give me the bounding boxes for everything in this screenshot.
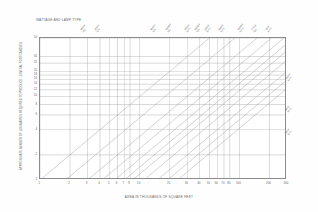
x-tick-label: 200 — [266, 181, 271, 185]
series-label-70w-hps: 70WHPS — [265, 26, 273, 34]
x-tick-label: 40 — [197, 181, 200, 185]
x-tick-label: 60 — [215, 181, 218, 185]
y-tick-label: 30 — [30, 54, 37, 58]
y-axis-title: APPROXIMATE NUMBER OF LUMINAIRES REQUIRE… — [14, 36, 30, 176]
y-tick-label: 12 — [30, 87, 37, 91]
series-label-175w-mv: 175WMV — [252, 25, 261, 34]
series-label-250w-mh: 250WMH — [94, 25, 103, 34]
chart-title: WATTAGE AND LAMP TYPE — [36, 18, 81, 22]
series-label-150w-hps: 150WHPS — [185, 25, 194, 34]
series-label-100w-hps: 100WHPS — [285, 74, 294, 83]
series-label-400w-hps: 400WHPS — [218, 25, 227, 34]
series-label-1000w-hps: 1000WHPS — [237, 24, 247, 34]
x-tick-label: 7 — [122, 181, 124, 185]
x-tick-label: 2 — [68, 181, 70, 185]
y-tick-label: 10 — [30, 93, 37, 97]
y-tick-label: 2 — [30, 152, 37, 156]
x-tick-label: 4 — [98, 181, 100, 185]
series-label-35w-hps: 35WHPS — [285, 129, 293, 137]
x-tick-label: 30 — [185, 181, 188, 185]
x-tick-label: 6 — [116, 181, 118, 185]
y-tick-label: 14 — [30, 81, 37, 85]
y-axis-title-text: APPROXIMATE NUMBER OF LUMINAIRES REQUIRE… — [20, 42, 24, 170]
x-tick-label: 8 — [128, 181, 130, 185]
y-tick-label: 1 — [30, 177, 37, 181]
x-axis-title: AREA IN THOUSANDS OF SQUARE FEET — [0, 195, 318, 199]
series-label-50w-hps: 50WHPS — [285, 106, 293, 114]
x-tick-label: 300 — [284, 181, 289, 185]
y-tick-label: 16 — [30, 76, 37, 80]
y-tick-label: 6 — [30, 112, 37, 116]
x-tick-label: 50 — [207, 181, 210, 185]
x-tick-label: 3 — [86, 181, 88, 185]
x-tick-label: 100 — [236, 181, 241, 185]
x-tick-label: 80 — [227, 181, 230, 185]
y-tick-label: 8 — [30, 102, 37, 106]
y-tick-label: 20 — [30, 68, 37, 72]
x-tick-label: 70 — [221, 181, 224, 185]
y-tick-label: 4 — [30, 127, 37, 131]
x-tick-label: 1 — [38, 181, 40, 185]
series-label-250w-hps: 250WHPS — [205, 25, 214, 34]
x-tick-label: 5 — [108, 181, 110, 185]
plot-area — [39, 37, 286, 179]
y-tick-label: 18 — [30, 72, 37, 76]
chart-figure: WATTAGE AND LAMP TYPE APPROXIMATE NUMBER… — [0, 0, 318, 212]
x-tick-label: 20 — [167, 181, 170, 185]
series-label-1000w-mv: 1000WMV — [165, 24, 175, 34]
series-label-400w-mv: 400WMV — [80, 25, 89, 34]
x-tick-label: 10 — [137, 181, 140, 185]
y-tick-label: 50 — [30, 35, 37, 39]
series-label-400w-mh: 400WMH — [150, 25, 159, 34]
plot-svg — [40, 38, 286, 179]
y-tick-label: 25 — [30, 60, 37, 64]
